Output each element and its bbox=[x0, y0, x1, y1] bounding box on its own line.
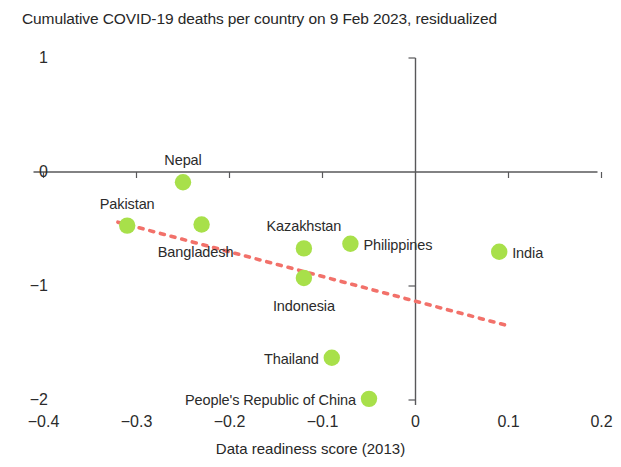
y-tick-label-3: −2 bbox=[14, 391, 48, 409]
point-label-nepal: Nepal bbox=[164, 152, 201, 168]
data-point-marker-0[interactable] bbox=[175, 174, 191, 190]
y-tick-label-2: −1 bbox=[14, 277, 48, 295]
point-label-philippines: Philippines bbox=[363, 237, 432, 253]
x-tick-label-3: −0.1 bbox=[307, 413, 339, 431]
point-label-india: India bbox=[512, 245, 543, 261]
chart-figure: Cumulative COVID-19 deaths per country o… bbox=[0, 0, 621, 467]
x-tick-label-2: −0.2 bbox=[214, 413, 246, 431]
y-tick-label-1: 0 bbox=[14, 163, 48, 181]
x-tick-label-6: 0.2 bbox=[590, 413, 612, 431]
data-point-marker-4[interactable] bbox=[342, 236, 358, 252]
point-label-bangladesh: Bangladesh bbox=[158, 244, 234, 260]
data-point-marker-5[interactable] bbox=[296, 270, 312, 286]
x-tick-label-4: 0 bbox=[411, 413, 420, 431]
x-axis-title: Data readiness score (2013) bbox=[0, 440, 621, 457]
point-label-kazakhstan: Kazakhstan bbox=[267, 218, 342, 234]
point-label-pakistan: Pakistan bbox=[100, 196, 155, 212]
data-point-marker-6[interactable] bbox=[491, 244, 507, 260]
data-point-marker-7[interactable] bbox=[324, 350, 340, 366]
data-point-marker-8[interactable] bbox=[361, 391, 377, 407]
data-point-marker-2[interactable] bbox=[193, 216, 209, 232]
point-label-indonesia: Indonesia bbox=[273, 298, 335, 314]
x-tick-label-0: −0.4 bbox=[28, 413, 60, 431]
point-label-thailand: Thailand bbox=[264, 351, 319, 367]
x-tick-label-1: −0.3 bbox=[121, 413, 153, 431]
y-tick-label-0: 1 bbox=[14, 49, 48, 67]
data-point-marker-1[interactable] bbox=[119, 217, 135, 233]
data-point-marker-3[interactable] bbox=[296, 240, 312, 256]
point-label-people-s-republic-of-china: People's Republic of China bbox=[185, 392, 356, 408]
x-tick-label-5: 0.1 bbox=[497, 413, 519, 431]
